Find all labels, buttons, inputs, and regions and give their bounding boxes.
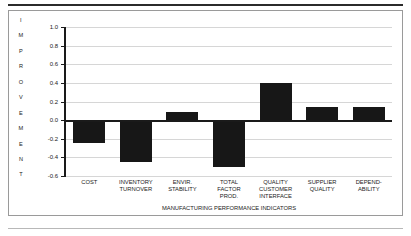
x-axis-label-line: TOTAL <box>206 179 253 186</box>
gridline-8 <box>66 176 392 177</box>
x-axis-label: QUALITYCUSTOMERINTERFACE <box>252 179 299 201</box>
y-axis-title-letter-4: O <box>19 80 24 86</box>
x-axis-label: COST <box>66 179 113 186</box>
bottom-rule <box>8 228 403 229</box>
y-axis-title: IMPROVEMENT <box>14 18 28 178</box>
y-axis-title-letter-8: E <box>19 142 23 148</box>
x-axis-label-line: QUALITY <box>252 179 299 186</box>
y-axis-title-letter-2: P <box>19 49 23 55</box>
y-tick-mark-8 <box>61 176 66 177</box>
bar <box>73 120 105 143</box>
x-axis-label-line: FACTOR <box>206 186 253 193</box>
zero-line <box>66 120 392 122</box>
bar <box>353 107 385 120</box>
bar-series <box>66 27 392 176</box>
y-tick-label-5: 0.0 <box>32 117 58 123</box>
x-axis-label: ENVIR.STABILITY <box>159 179 206 193</box>
x-axis-label: DEPEND-ABILITY <box>345 179 392 193</box>
bar <box>120 120 152 162</box>
y-tick-label-2: 0.6 <box>32 61 58 67</box>
x-axis-label-line: DEPEND- <box>345 179 392 186</box>
x-axis-label-line: ENVIR. <box>159 179 206 186</box>
y-tick-label-7: -0.4 <box>32 154 58 160</box>
x-axis-label-line: PROD. <box>206 193 253 200</box>
x-axis-category-labels: COSTINVENTORYTURNOVERENVIR.STABILITYTOTA… <box>66 179 392 205</box>
figure: IMPROVEMENT 1.00.80.60.40.20.0-0.2-0.4-0… <box>0 0 411 236</box>
y-axis-title-letter-10: T <box>19 172 23 178</box>
plot-area <box>66 27 392 176</box>
bar <box>260 83 292 120</box>
y-axis-title-letter-6: E <box>19 111 23 117</box>
x-axis-label: INVENTORYTURNOVER <box>113 179 160 193</box>
y-axis-title-letter-7: M <box>19 126 24 132</box>
x-axis-label-line: INTERFACE <box>252 193 299 200</box>
x-axis-label-line: QUALITY <box>299 186 346 193</box>
x-axis-label-line: STABILITY <box>159 186 206 193</box>
y-axis-title-letter-9: N <box>19 157 23 163</box>
x-axis-label-line: TURNOVER <box>113 186 160 193</box>
x-axis-label-line: SUPPLIER <box>299 179 346 186</box>
x-axis-label-line: COST <box>66 179 113 186</box>
y-tick-label-1: 0.8 <box>32 43 58 49</box>
y-tick-label-3: 0.4 <box>32 80 58 86</box>
x-axis-label: TOTALFACTORPROD. <box>206 179 253 201</box>
y-tick-label-4: 0.2 <box>32 99 58 105</box>
y-axis-title-letter-5: V <box>19 95 23 101</box>
y-axis-title-letter-3: R <box>19 64 23 70</box>
bar <box>306 107 338 120</box>
x-axis-title: MANUFACTURING PERFORMANCE INDICATORS <box>66 205 392 212</box>
top-rule <box>8 4 403 6</box>
x-axis-label: SUPPLIERQUALITY <box>299 179 346 193</box>
x-axis-label-line: INVENTORY <box>113 179 160 186</box>
bar <box>213 120 245 167</box>
bar <box>166 112 198 120</box>
y-axis-title-letter-1: M <box>19 33 24 39</box>
y-tick-label-6: -0.2 <box>32 136 58 142</box>
y-tick-label-8: -0.6 <box>32 173 58 179</box>
y-tick-label-0: 1.0 <box>32 24 58 30</box>
y-axis-title-letter-0: I <box>20 18 22 24</box>
x-axis-label-line: CUSTOMER <box>252 186 299 193</box>
x-axis-label-line: ABILITY <box>345 186 392 193</box>
